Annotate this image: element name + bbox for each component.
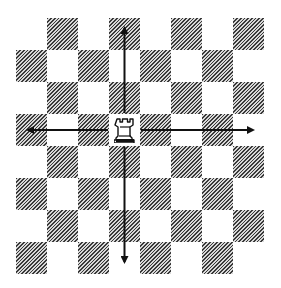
movement-arrows xyxy=(0,0,281,288)
